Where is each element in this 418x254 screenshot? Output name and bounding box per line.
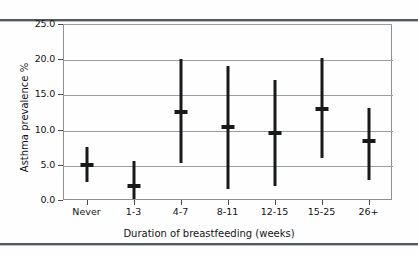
x-tick-mark — [275, 200, 276, 205]
errorbar-mean-marker — [174, 110, 187, 114]
gridline — [64, 60, 393, 61]
y-tick-label: 5.0 — [40, 159, 55, 170]
y-tick-label: 20.0 — [35, 53, 55, 64]
x-tick-mark — [369, 200, 370, 205]
y-tick-label: 25.0 — [35, 18, 55, 29]
y-tick-mark — [58, 94, 63, 95]
x-tick-mark — [228, 200, 229, 205]
y-tick-mark — [58, 24, 63, 25]
errorbar-whisker — [367, 108, 370, 180]
y-tick-mark — [58, 130, 63, 131]
errorbar-mean-marker — [127, 184, 140, 188]
page-rule-top — [0, 19, 418, 21]
x-tick-label: 15-25 — [308, 206, 336, 217]
y-tick-label: 15.0 — [35, 88, 55, 99]
y-tick-label: 10.0 — [35, 124, 55, 135]
x-tick-mark — [181, 200, 182, 205]
page-rule-bottom — [0, 243, 418, 245]
y-axis: 0.05.010.015.020.025.0 — [0, 0, 59, 254]
errorbar-mean-marker — [80, 163, 93, 167]
errorbar-whisker — [132, 161, 135, 199]
x-tick-mark — [322, 200, 323, 205]
figure-container: 0.05.010.015.020.025.0 Asthma prevalence… — [0, 0, 418, 254]
x-tick-label: 26+ — [358, 206, 378, 217]
x-tick-mark — [87, 200, 88, 205]
y-tick-mark — [58, 59, 63, 60]
x-tick-label: Never — [72, 206, 100, 217]
errorbar-mean-marker — [268, 131, 281, 135]
x-axis-title: Duration of breastfeeding (weeks) — [0, 228, 418, 239]
x-tick-mark — [134, 200, 135, 205]
x-tick-label: 8-11 — [217, 206, 239, 217]
errorbar-mean-marker — [315, 107, 328, 111]
y-tick-label: 0.0 — [40, 194, 55, 205]
errorbar-mean-marker — [221, 125, 234, 129]
x-tick-label: 4-7 — [173, 206, 189, 217]
y-tick-mark — [58, 165, 63, 166]
x-tick-label: 12-15 — [261, 206, 289, 217]
x-tick-label: 1-3 — [126, 206, 142, 217]
y-axis-title: Asthma prevalence % — [19, 48, 30, 188]
y-tick-mark — [58, 200, 63, 201]
errorbar-mean-marker — [362, 139, 375, 143]
